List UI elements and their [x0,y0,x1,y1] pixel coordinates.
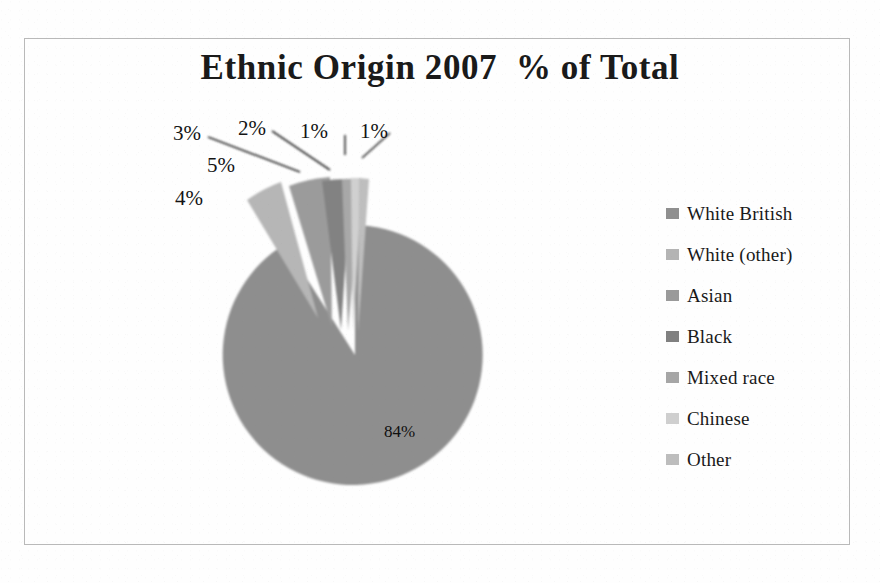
legend-item-black[interactable]: Black [666,316,846,357]
legend-swatch-icon [666,331,679,342]
legend-item-label: Chinese [687,408,750,430]
legend-item-asian[interactable]: Asian [666,275,846,316]
legend-swatch-icon [666,372,679,383]
legend-item-other[interactable]: Other [666,439,846,480]
data-label-5pct: 5% [207,155,235,176]
legend-swatch-icon [666,208,679,219]
chart-legend: White British White (other) Asian Black … [666,193,846,480]
data-label-4pct: 4% [175,188,203,209]
data-label-84pct: 84% [384,423,415,440]
legend-item-label: Mixed race [687,367,775,389]
legend-swatch-icon [666,290,679,301]
legend-item-white-british[interactable]: White British [666,193,846,234]
data-label-1pct-b: 1% [360,121,388,142]
legend-item-white-other[interactable]: White (other) [666,234,846,275]
legend-swatch-icon [666,454,679,465]
data-label-3pct: 3% [173,123,201,144]
legend-item-label: Other [687,449,731,471]
legend-item-label: White (other) [687,244,792,266]
data-label-2pct: 2% [238,118,266,139]
legend-swatch-icon [666,249,679,260]
data-label-1pct-a: 1% [300,121,328,142]
legend-item-label: Black [687,326,732,348]
legend-item-chinese[interactable]: Chinese [666,398,846,439]
legend-item-label: Asian [687,285,732,307]
scanned-page: Ethnic Origin 2007 % of Total [0,0,880,583]
legend-swatch-icon [666,413,679,424]
legend-item-mixed-race[interactable]: Mixed race [666,357,846,398]
legend-item-label: White British [687,203,793,225]
